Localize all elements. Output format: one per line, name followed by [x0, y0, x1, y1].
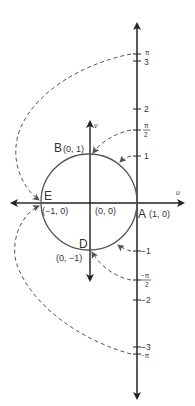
curve-neg-half-pi-to-D [92, 252, 131, 280]
tick-label-neg-pi-half-den: 2 [145, 281, 149, 288]
u-axis-label: u [176, 189, 180, 196]
v-axis-label: v [94, 122, 98, 129]
curve-pi-to-E [16, 54, 131, 200]
tick-label-1: 1 [144, 151, 149, 161]
mapping-curves [15, 54, 131, 354]
origin-coords: (0, 0) [95, 206, 116, 216]
curve-half-pi-to-B [93, 130, 131, 153]
point-B-coords: (0, 1) [63, 144, 84, 154]
curve-neg-pi-to-E [15, 206, 131, 354]
mapping-diagram: u v π 3 2 π 2 1 −1 −π 2 −2 [0, 0, 195, 406]
tick-label-neg-2: −2 [141, 295, 151, 305]
point-labels: B (0, 1) E (−1, 0) (0, 0) A (1, 0) D (0,… [42, 141, 170, 263]
tick-label-neg-3: −3 [141, 342, 151, 352]
unit-circle [41, 154, 137, 250]
point-E-name: E [44, 189, 52, 203]
tick-label-pi-half-den: 2 [144, 131, 148, 138]
u-axis: u [12, 189, 183, 203]
tick-label-neg-pi: −π [141, 352, 150, 359]
tick-label-3: 3 [144, 57, 149, 67]
point-E-coords: (−1, 0) [42, 206, 68, 216]
curve-neg1-to-circle [118, 245, 131, 251]
tick-label-2: 2 [144, 104, 149, 114]
tick-label-pi-half-num: π [144, 122, 149, 129]
point-D-coords: (0, −1) [56, 253, 82, 263]
point-A-coords: (1, 0) [149, 209, 170, 219]
point-A-name: A [138, 207, 146, 221]
tick-label-pi: π [145, 49, 150, 56]
tick-label-neg-pi-half-num: −π [141, 272, 150, 279]
point-D-name: D [79, 237, 88, 251]
curve-1-to-circle [120, 156, 131, 162]
v-axis: v [90, 122, 98, 280]
tick-labels: π 3 2 π 2 1 −1 −π 2 −2 −3 −π [141, 49, 151, 359]
tick-label-neg-1: −1 [141, 246, 151, 256]
point-B-name: B [54, 141, 62, 155]
